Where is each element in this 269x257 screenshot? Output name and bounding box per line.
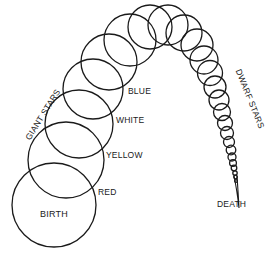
label-blue: BLUE [128, 87, 151, 96]
star-circle-s7 [128, 5, 172, 49]
star-circle-s16 [218, 116, 233, 131]
label-red: RED [98, 188, 117, 197]
star-circle-s13 [204, 76, 226, 98]
star-circle-red [28, 122, 104, 198]
label-birth: BIRTH [40, 210, 68, 219]
star-circle-s15 [214, 104, 231, 121]
label-white: WHITE [116, 116, 144, 125]
label-death: DEATH [217, 200, 246, 209]
star-circle-birth [12, 163, 96, 247]
star-circle-s23 [233, 171, 237, 175]
star-circle-s14 [209, 90, 229, 110]
label-yellow: YELLOW [106, 151, 143, 160]
star-circle-blue [81, 34, 137, 90]
